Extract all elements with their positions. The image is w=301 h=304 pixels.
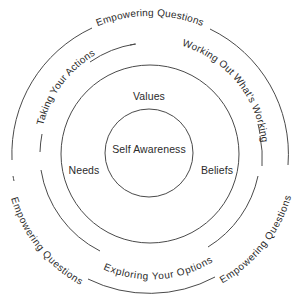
- middle-label-upper-left: Taking Your Actions: [34, 47, 96, 126]
- outer-label-top: Empowering Questions: [94, 7, 205, 28]
- middle-ring: Taking Your Actions Working Out What's W…: [34, 37, 270, 281]
- outer-label-lower-right: Empowering Questions: [218, 194, 294, 286]
- inner-label-beliefs: Beliefs: [201, 164, 233, 176]
- middle-label-bottom: Exploring Your Options: [102, 254, 214, 282]
- concentric-circles-diagram: Empowering Questions Empowering Question…: [0, 0, 301, 304]
- center-label-self-awareness: Self Awareness: [112, 143, 186, 155]
- center-circle: Self Awareness: [105, 109, 193, 197]
- inner-label-values: Values: [133, 90, 165, 102]
- outer-label-lower-left: Empowering Questions: [9, 195, 85, 286]
- inner-label-needs: Needs: [69, 164, 100, 176]
- middle-label-upper-right: Working Out What's Working: [181, 37, 270, 143]
